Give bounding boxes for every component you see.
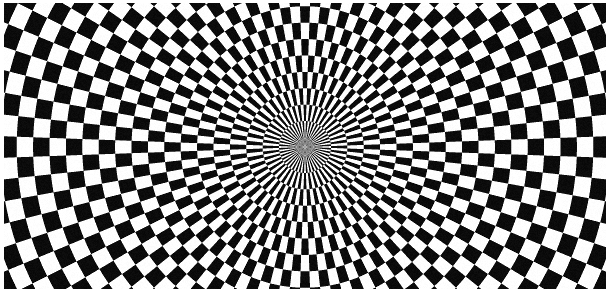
illusion-figure <box>0 0 610 292</box>
radial-checkerboard-canvas <box>0 0 610 292</box>
